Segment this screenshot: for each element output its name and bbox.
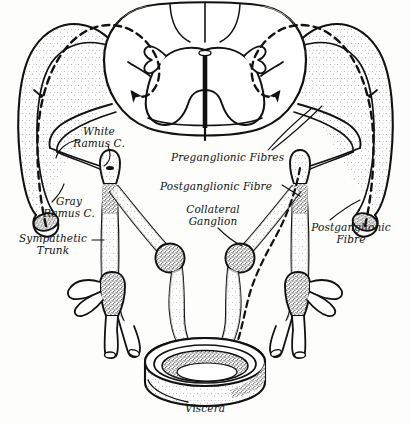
label-gray-ramus: Gray Ramus C. xyxy=(38,196,100,219)
figure-canvas: White Ramus C. Gray Ramus C. Sympathetic… xyxy=(0,0,410,425)
collateral-ganglion-left xyxy=(155,243,190,344)
label-postganglionic-fibre-right: Postganglionic Fibre xyxy=(305,222,397,245)
label-collateral-ganglion: Collateral Ganglion xyxy=(172,204,254,227)
label-postganglionic-fibre-center: Postganglionic Fibre xyxy=(160,181,285,193)
label-white-ramus: White Ramus C. xyxy=(68,126,130,149)
spinal-cord xyxy=(104,2,306,142)
label-preganglionic-fibres: Preganglionic Fibres xyxy=(171,152,291,164)
label-viscera: Viscera xyxy=(172,403,238,415)
label-sympathetic-trunk: Sympathetic Trunk xyxy=(12,233,94,256)
viscera-organ xyxy=(145,338,265,406)
